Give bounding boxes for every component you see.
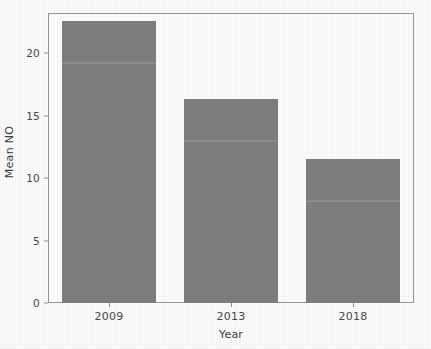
y-tick-mark-20: [44, 53, 48, 54]
bar-chart-figure: Mean NO 05101520 Year 200920132018: [0, 0, 431, 349]
x-tick-label-2018: 2018: [339, 310, 368, 323]
bar-2009: [62, 21, 156, 304]
y-axis: Mean NO 05101520: [0, 0, 48, 349]
bars-layer: [48, 13, 414, 303]
x-axis: Year 200920132018: [0, 303, 431, 349]
y-tick-mark-15: [44, 115, 48, 116]
x-tick-mark-2013: [231, 303, 232, 307]
bar-2018: [306, 159, 400, 303]
x-tick-mark-2009: [109, 303, 110, 307]
bar-2013: [184, 99, 278, 303]
y-tick-mark-5: [44, 240, 48, 241]
x-tick-mark-2018: [353, 303, 354, 307]
y-tick-label-15: 15: [26, 110, 40, 122]
y-tick-label-10: 10: [26, 172, 40, 184]
x-axis-label: Year: [219, 328, 243, 341]
y-tick-label-5: 5: [33, 235, 40, 247]
y-tick-mark-10: [44, 178, 48, 179]
y-tick-label-20: 20: [26, 47, 40, 59]
chart-title: [0, 0, 431, 7]
x-tick-label-2009: 2009: [95, 310, 124, 323]
y-axis-label: Mean NO: [3, 126, 16, 178]
x-tick-label-2013: 2013: [217, 310, 246, 323]
